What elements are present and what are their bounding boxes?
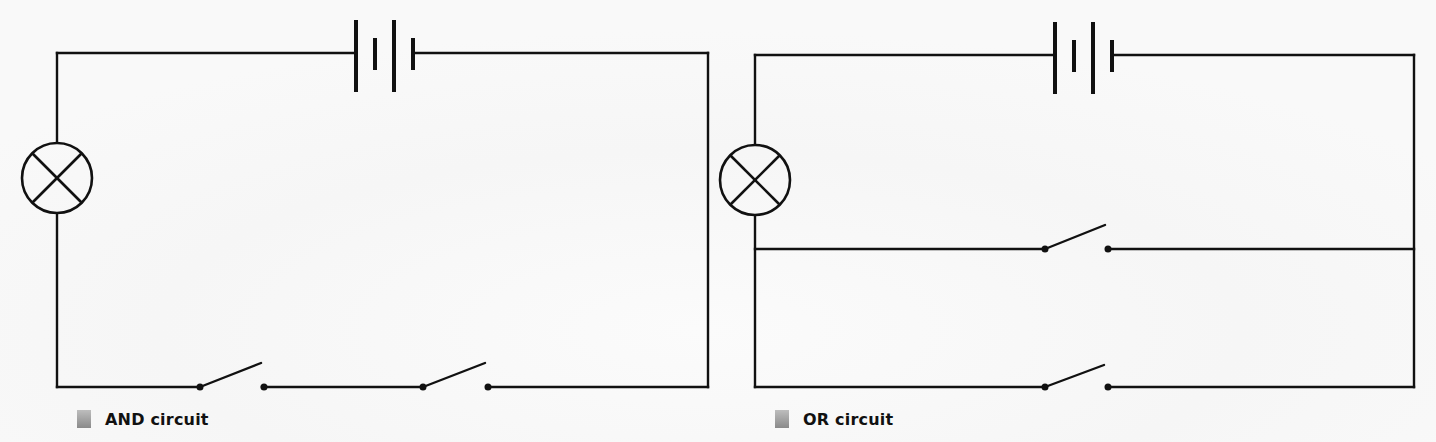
caption-marker-icon — [77, 410, 91, 428]
or-circuit — [720, 22, 1414, 391]
circuit-diagrams — [0, 0, 1436, 442]
or-caption: OR circuit — [775, 409, 893, 429]
and-lamp-icon — [22, 143, 92, 213]
or-switch-1-icon — [1042, 225, 1112, 253]
and-switch-2-icon — [420, 363, 492, 391]
or-lamp-icon — [720, 145, 790, 215]
caption-marker-icon — [775, 410, 789, 428]
or-switch-2-icon — [1042, 365, 1112, 391]
and-caption: AND circuit — [77, 409, 209, 429]
or-battery-icon — [1055, 22, 1112, 94]
and-circuit — [22, 20, 708, 391]
and-switch-1-icon — [197, 363, 268, 391]
and-caption-label: AND circuit — [105, 410, 209, 429]
or-caption-label: OR circuit — [803, 410, 893, 429]
and-battery-icon — [356, 20, 413, 92]
